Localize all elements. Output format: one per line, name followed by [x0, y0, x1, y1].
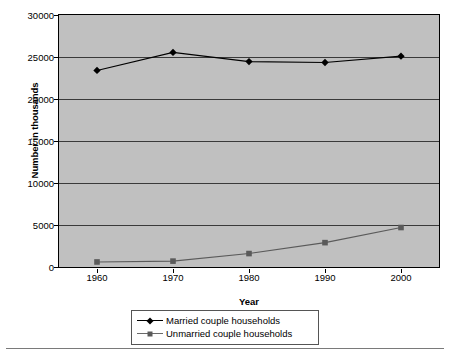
x-axis-tickmark	[325, 269, 326, 273]
data-point-square	[246, 251, 252, 257]
data-point-square	[322, 240, 328, 246]
data-point-square	[170, 258, 176, 264]
y-axis-tick-label: 0	[8, 262, 54, 273]
legend-label-unmarried: Unmarried couple households	[166, 328, 292, 339]
legend-item-married: Married couple households	[137, 314, 313, 327]
data-point-diamond	[169, 49, 176, 56]
diamond-marker-icon	[146, 317, 153, 324]
data-point-square	[94, 259, 100, 265]
data-point-diamond	[321, 59, 328, 66]
data-point-diamond	[93, 67, 100, 74]
x-axis-tick-label: 2000	[371, 272, 431, 283]
series-line	[97, 228, 401, 262]
data-point-diamond	[245, 58, 252, 65]
square-marker-icon	[148, 331, 153, 336]
y-axis-tick-label: 5000	[8, 220, 54, 231]
legend-label-married: Married couple households	[166, 315, 280, 326]
x-axis-tickmark	[249, 269, 250, 273]
chart-legend: Married couple households Unmarried coup…	[131, 310, 319, 345]
data-point-diamond	[397, 52, 404, 59]
plot-area	[58, 14, 440, 268]
legend-swatch-married	[137, 315, 163, 326]
x-axis-tick-label: 1990	[295, 272, 355, 283]
y-axis-tick-label: 25000	[8, 52, 54, 63]
legend-swatch-unmarried	[137, 328, 163, 339]
x-axis-tickmark	[401, 269, 402, 273]
x-axis-title: Year	[58, 296, 440, 307]
legend-item-unmarried: Unmarried couple households	[137, 327, 313, 340]
y-axis-tick-labels: 050001000015000200002500030000	[6, 0, 54, 358]
chart-figure: Number in thousands 05000100001500020000…	[0, 0, 450, 358]
y-axis-tick-label: 20000	[8, 94, 54, 105]
y-axis-tick-label: 15000	[8, 136, 54, 147]
footer-divider	[6, 348, 444, 349]
y-axis-tick-label: 30000	[8, 10, 54, 21]
series-layer	[59, 15, 439, 267]
data-point-square	[398, 225, 404, 231]
x-axis-tick-label: 1960	[67, 272, 127, 283]
y-axis-tick-label: 10000	[8, 178, 54, 189]
x-axis-tickmark	[173, 269, 174, 273]
x-axis-tick-label: 1980	[219, 272, 279, 283]
x-axis-tickmark	[97, 269, 98, 273]
x-axis-tick-label: 1970	[143, 272, 203, 283]
